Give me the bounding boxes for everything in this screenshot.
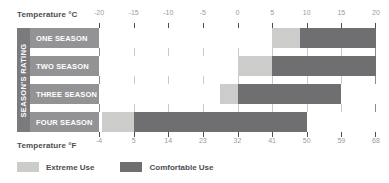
celsius-tick-labels: -20-15-10-505101520 <box>99 8 376 19</box>
fahrenheit-tick-labels: -4514233241505968 <box>99 136 376 147</box>
tick-label: 50 <box>303 136 311 145</box>
tick-label: -5 <box>200 8 206 17</box>
tick-label: 5 <box>132 136 136 145</box>
chart-row: FOUR SEASON <box>30 112 376 132</box>
tick-label: -4 <box>96 136 102 145</box>
tick-label: -15 <box>129 8 139 17</box>
row-category-label: FOUR SEASON <box>30 112 99 132</box>
tick-label: 23 <box>199 136 207 145</box>
legend-label: Extreme Use <box>46 163 94 172</box>
tick-label: 15 <box>337 8 345 17</box>
celsius-axis-caption: Temperature °C <box>17 10 77 19</box>
bar-segment <box>272 28 300 48</box>
bar-segment <box>134 112 307 132</box>
row-track <box>99 28 376 48</box>
seasons-rating-axis-label: SEASON'S RATING <box>17 28 30 132</box>
tick-label: 68 <box>372 136 380 145</box>
chart-row: ONE SEASON <box>30 28 376 48</box>
tick-label: 32 <box>234 136 242 145</box>
bar-segment <box>220 84 237 104</box>
tick-label: 20 <box>372 8 380 17</box>
fahrenheit-axis-caption: Temperature °F <box>17 141 77 150</box>
legend-item: Comfortable Use <box>120 162 213 172</box>
tick-label: -10 <box>163 8 173 17</box>
tick-label: 41 <box>268 136 276 145</box>
row-track <box>99 84 376 104</box>
bar-segment <box>300 28 376 48</box>
tick-label: -20 <box>94 8 104 17</box>
legend-swatch <box>17 162 39 172</box>
bar-segment <box>272 56 376 76</box>
chart-row: THREE SEASON <box>30 84 376 104</box>
tick-label: 5 <box>270 8 274 17</box>
tick-label: 0 <box>236 8 240 17</box>
seasons-rating-axis-label-text: SEASON'S RATING <box>19 43 28 117</box>
legend-item: Extreme Use <box>17 162 94 172</box>
seasons-rating-temperature-chart: Temperature °C -20-15-10-505101520 SEASO… <box>0 0 389 183</box>
chart-row: TWO SEASON <box>30 56 376 76</box>
row-category-label: THREE SEASON <box>30 84 99 104</box>
bar-segment <box>238 56 273 76</box>
row-track <box>99 56 376 76</box>
bar-segment <box>102 112 133 132</box>
tick-label: 14 <box>164 136 172 145</box>
tick-label: 10 <box>303 8 311 17</box>
tick-label: 59 <box>337 136 345 145</box>
row-category-label: ONE SEASON <box>30 28 99 48</box>
chart-legend: Extreme UseComfortable Use <box>17 160 240 174</box>
fahrenheit-axis: Temperature °F -4514233241505968 <box>0 136 389 154</box>
row-category-label: TWO SEASON <box>30 56 99 76</box>
bar-segment <box>238 84 342 104</box>
row-track <box>99 112 376 132</box>
legend-swatch <box>120 162 142 172</box>
legend-label: Comfortable Use <box>149 163 213 172</box>
